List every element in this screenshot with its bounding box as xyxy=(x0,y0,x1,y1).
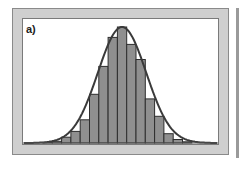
histogram-bar xyxy=(80,120,89,143)
histogram-bar xyxy=(90,94,99,143)
histogram-bar xyxy=(145,99,154,143)
histogram-bar xyxy=(108,37,117,143)
histogram-bar xyxy=(99,66,108,143)
histogram-bar xyxy=(155,116,164,143)
histogram-bar xyxy=(173,140,182,144)
histogram-bar xyxy=(71,131,80,143)
histogram-bar xyxy=(164,134,173,143)
histogram-bar xyxy=(136,60,145,144)
histogram-bar xyxy=(127,44,136,143)
histogram-bar xyxy=(117,27,126,143)
panel-label: a) xyxy=(26,23,36,35)
